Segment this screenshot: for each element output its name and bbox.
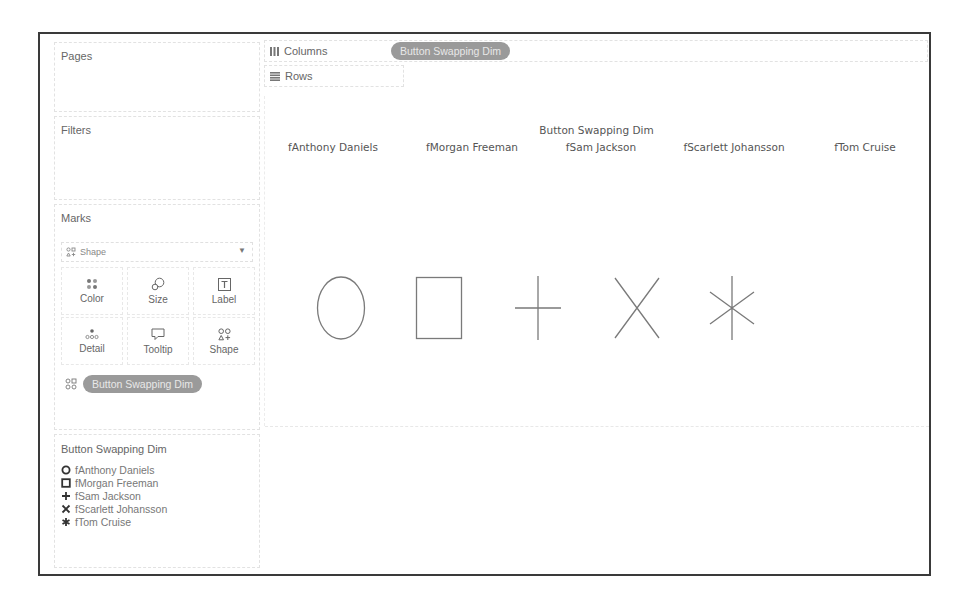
label-icon xyxy=(218,278,231,291)
size-icon xyxy=(151,277,165,291)
plus-icon xyxy=(61,491,71,501)
shape-legend: Button Swapping Dim fAnthony Daniels fMo… xyxy=(54,434,260,568)
column-header[interactable]: fScarlett Johansson xyxy=(683,141,784,153)
pane-divider xyxy=(265,426,929,427)
asterisk-icon xyxy=(61,517,71,527)
pages-title: Pages xyxy=(61,50,92,62)
legend-item-label: fSam Jackson xyxy=(75,490,141,502)
columns-shelf-label: Columns xyxy=(265,45,395,57)
cross-icon xyxy=(61,504,71,514)
square-icon xyxy=(61,478,71,488)
legend-item[interactable]: fTom Cruise xyxy=(61,515,167,528)
color-button[interactable]: Color xyxy=(61,267,123,315)
legend-item-label: fTom Cruise xyxy=(75,516,131,528)
tooltip-button[interactable]: Tooltip xyxy=(127,317,189,365)
columns-label-text: Columns xyxy=(284,45,327,57)
viz-canvas[interactable]: Button Swapping Dim fAnthony Daniels fMo… xyxy=(264,96,928,426)
marks-area xyxy=(265,246,928,336)
legend-item[interactable]: fSam Jackson xyxy=(61,489,167,502)
shape-icon xyxy=(65,378,77,390)
legend-item-label: fAnthony Daniels xyxy=(75,464,154,476)
color-label: Color xyxy=(80,293,104,304)
column-header[interactable]: fMorgan Freeman xyxy=(426,141,518,153)
legend-item[interactable]: fScarlett Johansson xyxy=(61,502,167,515)
circle-icon xyxy=(61,465,71,475)
shape-label: Shape xyxy=(210,344,239,355)
color-icon xyxy=(86,278,98,290)
square-mark[interactable] xyxy=(415,276,463,340)
shape-icon xyxy=(218,328,231,341)
column-header-title: Button Swapping Dim xyxy=(265,124,928,136)
marks-card: Marks Shape ▼ Color xyxy=(54,204,260,430)
rows-label-text: Rows xyxy=(285,70,313,82)
columns-pill[interactable]: Button Swapping Dim xyxy=(391,42,510,60)
column-header[interactable]: fTom Cruise xyxy=(834,141,895,153)
size-button[interactable]: Size xyxy=(127,267,189,315)
legend-item-label: fMorgan Freeman xyxy=(75,477,158,489)
mark-type-dropdown[interactable]: Shape ▼ xyxy=(61,242,253,262)
plus-mark[interactable] xyxy=(513,275,563,341)
asterisk-mark[interactable] xyxy=(709,275,755,341)
tableau-worksheet: Pages Filters Marks Shape ▼ Color xyxy=(38,32,931,576)
column-headers: fAnthony Daniels fMorgan Freeman fSam Ja… xyxy=(265,141,928,157)
legend-item[interactable]: fMorgan Freeman xyxy=(61,476,167,489)
column-header[interactable]: fAnthony Daniels xyxy=(288,141,378,153)
detail-label: Detail xyxy=(79,343,105,354)
size-label: Size xyxy=(148,294,167,305)
legend-title: Button Swapping Dim xyxy=(61,443,167,455)
tooltip-label: Tooltip xyxy=(144,344,173,355)
shape-encoding: Button Swapping Dim xyxy=(65,375,202,393)
detail-button[interactable]: Detail xyxy=(61,317,123,365)
shape-field-pill[interactable]: Button Swapping Dim xyxy=(83,375,202,393)
tooltip-icon xyxy=(151,328,165,341)
rows-icon xyxy=(270,72,280,81)
shape-button[interactable]: Shape xyxy=(193,317,255,365)
column-header[interactable]: fSam Jackson xyxy=(566,141,636,153)
legend-item-label: fScarlett Johansson xyxy=(75,503,167,515)
cross-mark[interactable] xyxy=(613,276,661,340)
mark-buttons: Color Size Label xyxy=(61,267,255,365)
shape-icon xyxy=(66,247,76,257)
filters-title: Filters xyxy=(61,124,91,136)
mark-type-label: Shape xyxy=(80,247,106,257)
legend-item[interactable]: fAnthony Daniels xyxy=(61,463,167,476)
chevron-down-icon: ▼ xyxy=(238,246,246,255)
columns-shelf[interactable]: Columns Button Swapping Dim xyxy=(264,40,928,62)
filters-shelf[interactable]: Filters xyxy=(54,116,260,200)
detail-icon xyxy=(85,328,99,340)
rows-shelf-label: Rows xyxy=(265,70,395,82)
marks-title: Marks xyxy=(61,212,91,224)
pages-shelf[interactable]: Pages xyxy=(54,42,260,112)
columns-icon xyxy=(270,46,279,56)
circle-mark[interactable] xyxy=(315,274,367,342)
label-label: Label xyxy=(212,294,236,305)
rows-shelf[interactable]: Rows xyxy=(264,65,404,87)
label-button[interactable]: Label xyxy=(193,267,255,315)
